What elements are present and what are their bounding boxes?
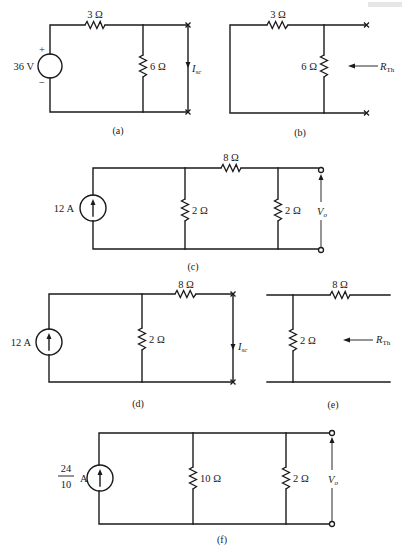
- resistor-8-ohm: [175, 291, 196, 298]
- resistor-3-ohm: [85, 22, 105, 29]
- resistor-label: 6 Ω: [150, 61, 166, 72]
- arrowhead: [98, 469, 103, 475]
- resistor-label: 2 Ω: [293, 473, 309, 484]
- wire: [230, 25, 267, 112]
- wire: [99, 433, 329, 465]
- resistor-3-ohm: [267, 22, 288, 29]
- open-terminal-icon: [330, 522, 335, 527]
- resistor-8-ohm: [330, 292, 350, 299]
- arrowhead: [330, 437, 335, 443]
- panel-e: 8 Ω 2 Ω RTh (e): [267, 279, 391, 411]
- wire: [93, 168, 221, 195]
- resistor-label: 3 Ω: [87, 9, 103, 20]
- circuit-figure: 3 Ω 6 Ω + − 36 V Isc (a) 3 Ω 6 Ω RTh (b): [0, 0, 407, 552]
- panel-f: 10 Ω 2 Ω 24 10 A Vo (f): [58, 431, 338, 547]
- wire: [49, 294, 175, 329]
- arrow-down-icon: [186, 62, 191, 68]
- panel-caption: (b): [294, 127, 306, 139]
- page-number-remnant: [368, 2, 402, 7]
- wire: [49, 355, 233, 382]
- open-terminal-icon: [319, 248, 324, 253]
- panel-c: 8 Ω 2 Ω 2 Ω 12 A Vo (c): [54, 152, 328, 273]
- panel-caption: (d): [132, 398, 144, 410]
- resistor-label: 10 Ω: [200, 473, 221, 484]
- panel-b: 3 Ω 6 Ω RTh (b): [230, 9, 395, 139]
- resistor-label: 2 Ω: [192, 205, 208, 216]
- source-plus-sign: +: [39, 44, 45, 55]
- source-label: 12 A: [54, 203, 75, 214]
- open-terminal-icon: [319, 168, 324, 173]
- current-label: Isc: [237, 341, 248, 354]
- resistor-2-ohm: [139, 328, 146, 350]
- resistor-2-ohm: [290, 329, 297, 351]
- panel-caption: (a): [112, 125, 123, 137]
- resistor-label: 2 Ω: [285, 205, 301, 216]
- current-label: Isc: [191, 63, 202, 76]
- resistor-label: 6 Ω: [301, 61, 317, 72]
- resistor-2-ohm: [182, 199, 189, 221]
- wire: [50, 78, 188, 112]
- arrowhead: [343, 338, 350, 343]
- thevenin-resistance-label: RTh: [379, 61, 395, 74]
- arrowhead: [319, 174, 324, 180]
- arrowhead: [348, 64, 355, 69]
- source-fraction-numerator: 24: [61, 463, 72, 474]
- resistor-label: 8 Ω: [178, 279, 194, 290]
- source-minus-sign: −: [39, 77, 45, 88]
- wire: [99, 491, 329, 524]
- arrowhead: [47, 333, 52, 339]
- output-voltage-label: Vo: [317, 206, 327, 219]
- panel-caption: (e): [327, 399, 338, 411]
- source-fraction-denominator: 10: [61, 479, 72, 490]
- panel-caption: (c): [187, 261, 198, 273]
- resistor-label: 8 Ω: [332, 279, 348, 290]
- resistor-label: 2 Ω: [149, 334, 165, 345]
- resistor-8-ohm: [221, 165, 241, 172]
- source-label: 12 A: [11, 337, 32, 348]
- open-terminal-icon: [330, 431, 335, 436]
- voltage-source-icon: [38, 54, 62, 78]
- panel-caption: (f): [217, 534, 227, 546]
- arrowhead: [91, 199, 96, 205]
- resistor-2-ohm: [283, 467, 290, 489]
- wire: [93, 221, 318, 249]
- wire: [50, 25, 85, 54]
- resistor-6-ohm: [140, 55, 147, 77]
- source-label: 36 V: [13, 61, 34, 72]
- output-voltage-label: Vo: [328, 474, 338, 487]
- resistor-10-ohm: [190, 467, 197, 489]
- resistor-label: 3 Ω: [270, 9, 286, 20]
- resistor-label: 2 Ω: [300, 335, 316, 346]
- resistor-6-ohm: [321, 55, 328, 77]
- thevenin-resistance-label: RTh: [375, 334, 391, 347]
- resistor-2-ohm: [275, 199, 282, 221]
- panel-d: 8 Ω 2 Ω 12 A Isc (d): [11, 279, 248, 410]
- arrow-down-icon: [231, 344, 236, 350]
- resistor-label: 8 Ω: [223, 152, 239, 163]
- source-unit: A: [80, 473, 88, 484]
- panel-a: 3 Ω 6 Ω + − 36 V Isc (a): [13, 9, 202, 137]
